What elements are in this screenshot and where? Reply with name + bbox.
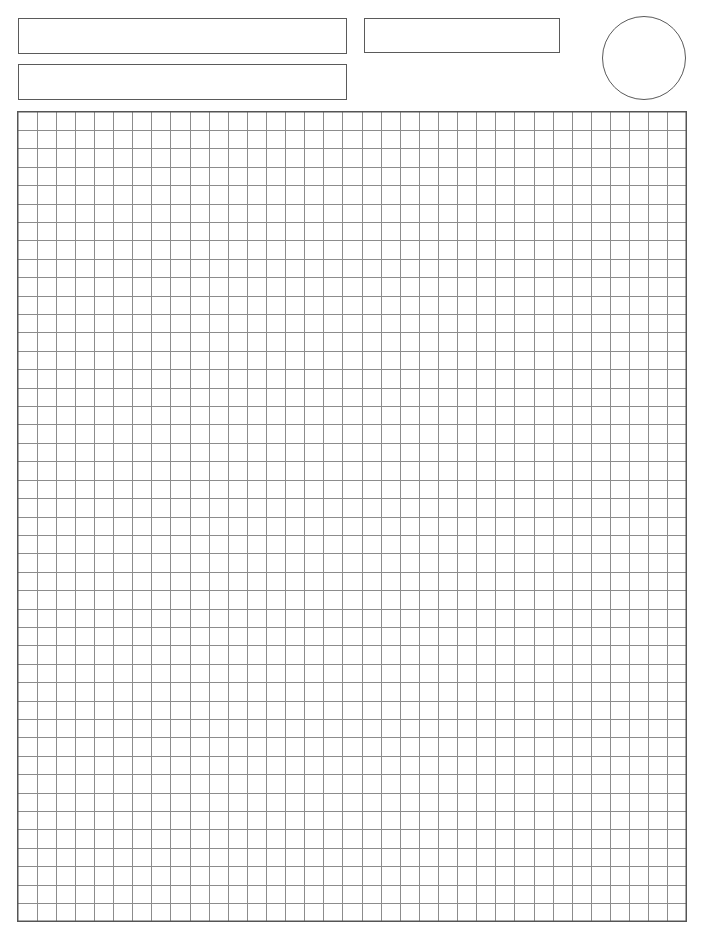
header-field-bottom-left[interactable] [18,64,347,100]
grid-lines [17,111,687,922]
header-field-top-middle[interactable] [364,18,560,53]
header-field-top-left[interactable] [18,18,347,54]
graph-paper-grid[interactable] [17,111,687,922]
grid-inner-lines [18,112,687,922]
grid-border [18,112,687,922]
score-circle[interactable] [602,16,686,100]
